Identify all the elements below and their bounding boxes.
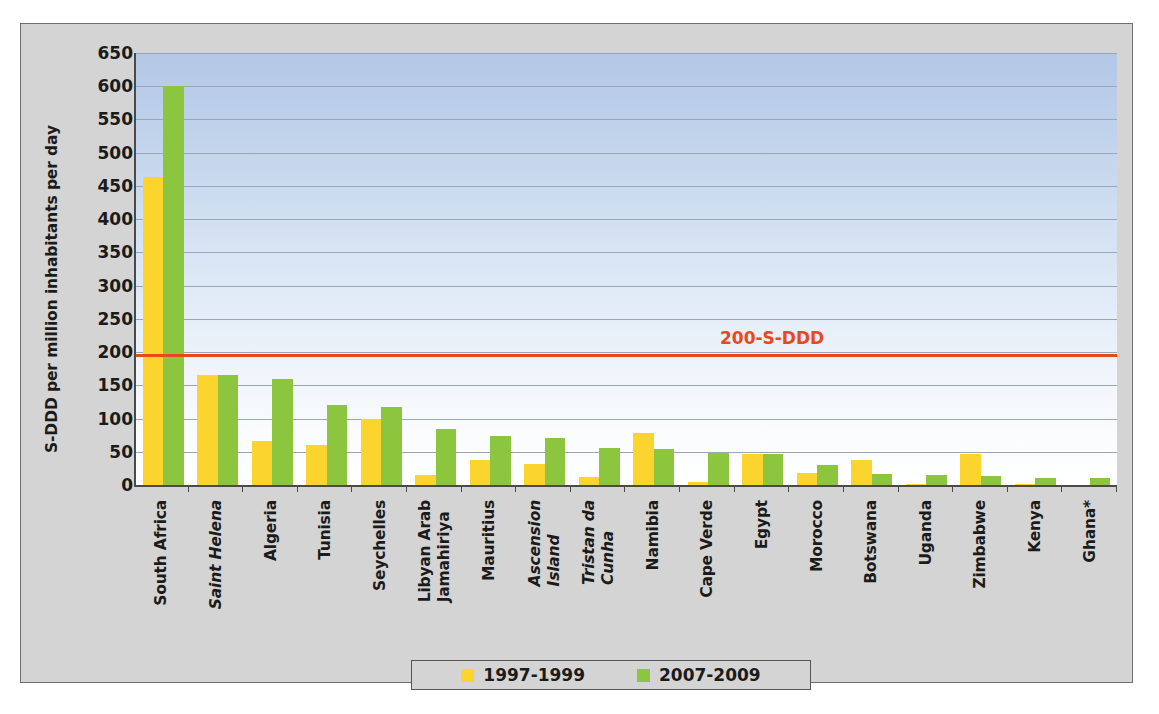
bar (545, 438, 566, 485)
bar (797, 473, 818, 485)
y-axis-tick-label: 0 (61, 475, 133, 495)
x-axis-label-cell: Libyan ArabJamahiriya (407, 494, 462, 644)
x-axis-tick (407, 485, 462, 493)
x-axis-tick (625, 485, 680, 493)
x-axis-tick (1062, 485, 1117, 493)
x-axis-tick-label: Uganda (917, 500, 935, 566)
bar (470, 460, 491, 485)
x-axis-label-cell: Egypt (735, 494, 790, 644)
bar (218, 375, 239, 485)
bar (327, 405, 348, 485)
bar (381, 407, 402, 485)
legend-entry[interactable]: 1997-1999 (461, 665, 585, 685)
bar-group (736, 53, 791, 485)
y-axis-tick-label: 150 (61, 375, 133, 395)
bar-group (409, 53, 464, 485)
bar-group (681, 53, 736, 485)
bar-group (954, 53, 1009, 485)
bar-group (300, 53, 355, 485)
y-axis-tick-label: 550 (61, 109, 133, 129)
x-axis-tick (735, 485, 790, 493)
y-axis-tick-label: 250 (61, 309, 133, 329)
x-axis-label-cell: Tunisia (298, 494, 353, 644)
bar-group (354, 53, 409, 485)
x-axis-label-cell: Uganda (899, 494, 954, 644)
bar (524, 464, 545, 485)
x-axis-tick (352, 485, 407, 493)
bar (579, 477, 600, 485)
x-axis-tick-label: Botswana (862, 500, 880, 584)
bar (143, 177, 164, 485)
x-axis-ticks (134, 485, 1117, 493)
threshold-label: 200-S-DDD (720, 328, 824, 348)
y-axis-tick-label: 300 (61, 276, 133, 296)
bar (599, 448, 620, 485)
bar (654, 449, 675, 485)
x-axis-label-cell: Tristan daCunha (571, 494, 626, 644)
threshold-line (136, 354, 1117, 357)
y-axis-tick-label: 600 (61, 76, 133, 96)
bar-group (1063, 53, 1118, 485)
x-axis-tick-label: Namibia (644, 500, 662, 570)
x-axis-tick-label: Seychelles (371, 500, 389, 591)
x-axis-label-cell: Ghana* (1062, 494, 1117, 644)
legend-swatch (637, 669, 650, 682)
bar-group (463, 53, 518, 485)
bar-group (1008, 53, 1063, 485)
legend-label: 1997-1999 (483, 665, 585, 685)
bar (197, 375, 218, 485)
x-axis-label-cell: Zimbabwe (953, 494, 1008, 644)
y-axis-tick-label: 500 (61, 143, 133, 163)
x-axis-tick (571, 485, 626, 493)
x-axis-label-cell: Mauritius (462, 494, 517, 644)
x-axis-tick-label: Mauritius (480, 500, 498, 581)
x-axis-tick-label: Saint Helena (207, 500, 225, 609)
bar (306, 445, 327, 485)
x-axis-tick-label: Cape Verde (698, 500, 716, 598)
x-axis-tick-label: Kenya (1026, 500, 1044, 553)
bar (981, 476, 1002, 485)
x-axis-tick-label: Zimbabwe (971, 500, 989, 589)
bar (1035, 478, 1056, 485)
x-axis-tick-label: Morocco (808, 500, 826, 572)
bar (817, 465, 838, 485)
bars-layer (136, 53, 1117, 485)
bar-group (136, 53, 191, 485)
x-axis-tick (953, 485, 1008, 493)
bar (633, 433, 654, 485)
x-axis-tick (680, 485, 735, 493)
plot-area: 200-S-DDD (134, 53, 1117, 487)
legend-label: 2007-2009 (659, 665, 761, 685)
x-axis-tick-label: Cunha (599, 500, 617, 585)
x-axis-label-cell: Namibia (625, 494, 680, 644)
x-axis-tick-label: Egypt (753, 500, 771, 549)
bar (1090, 478, 1111, 485)
y-axis-tick-label: 450 (61, 176, 133, 196)
bar-group (790, 53, 845, 485)
y-axis-tick-label: 50 (61, 442, 133, 462)
x-axis-tick-label: Tunisia (316, 500, 334, 560)
legend-entry[interactable]: 2007-2009 (637, 665, 761, 685)
x-axis-tick (298, 485, 353, 493)
legend-swatch (461, 669, 474, 682)
y-axis-tick-labels: 650600550500450400350300250200150100500 (61, 53, 133, 485)
bar (415, 475, 436, 485)
x-axis-tick (134, 485, 189, 493)
bar (763, 454, 784, 485)
bar (361, 419, 382, 485)
bar (926, 475, 947, 485)
bar (490, 436, 511, 485)
bar (252, 441, 273, 485)
x-axis-tick-label: Tristan da (580, 500, 598, 585)
bar (960, 454, 981, 485)
bar (436, 429, 457, 485)
x-axis-label-cell: South Africa (134, 494, 189, 644)
x-axis-tick-labels: South AfricaSaint HelenaAlgeriaTunisiaSe… (134, 494, 1117, 644)
x-axis-label-cell: Botswana (844, 494, 899, 644)
x-axis-tick (844, 485, 899, 493)
x-axis-label-cell: Seychelles (352, 494, 407, 644)
x-axis-tick (189, 485, 244, 493)
bar (872, 474, 893, 485)
x-axis-tick-label: Algeria (262, 500, 280, 561)
bar (163, 86, 184, 485)
